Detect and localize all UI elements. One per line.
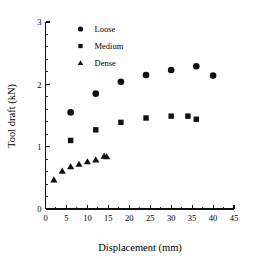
data-point [59, 167, 66, 173]
data-point [92, 90, 99, 97]
chart-figure: 0510152025303540450123 LooseMediumDense … [0, 0, 253, 259]
legend-label-loose: Loose [95, 24, 116, 34]
x-tick-label: 0 [43, 213, 47, 223]
data-point [143, 115, 148, 120]
x-axis-title: Displacement (mm) [98, 242, 182, 254]
data-point [143, 72, 150, 79]
axes [46, 22, 235, 209]
axis-tick-labels: 0510152025303540450123 [37, 17, 238, 223]
data-point [168, 113, 173, 118]
x-tick-label: 45 [230, 213, 239, 223]
y-axis-title: Tool draft (kN) [6, 84, 18, 148]
data-point [50, 176, 57, 182]
x-tick-label: 5 [64, 213, 68, 223]
chart-legend: LooseMediumDense [78, 24, 124, 68]
x-tick-label: 25 [146, 213, 155, 223]
data-point [194, 117, 199, 122]
y-tick-label: 2 [37, 80, 41, 90]
data-point [168, 67, 175, 74]
data-point [84, 158, 91, 164]
x-tick-label: 10 [83, 213, 92, 223]
data-point [67, 163, 74, 169]
legend-label-medium: Medium [95, 41, 124, 51]
y-tick-label: 3 [37, 17, 41, 27]
data-point [118, 79, 125, 86]
x-tick-label: 35 [188, 213, 197, 223]
x-tick-label: 30 [167, 213, 176, 223]
data-point [75, 161, 82, 167]
data-point [210, 72, 217, 79]
x-tick-label: 15 [104, 213, 113, 223]
legend-marker-medium-icon [78, 44, 82, 48]
series-loose [67, 63, 216, 116]
data-point [93, 127, 98, 132]
axis-ticks [46, 22, 235, 209]
data-point [185, 113, 190, 118]
data-point [68, 138, 73, 143]
series-dense [50, 153, 110, 183]
y-tick-label: 1 [37, 142, 41, 152]
legend-marker-loose-icon [78, 26, 83, 31]
y-tick-label: 0 [37, 204, 41, 214]
data-point [193, 63, 200, 70]
data-point [92, 156, 99, 162]
series-medium [68, 113, 199, 143]
legend-marker-dense-icon [78, 60, 84, 65]
data-point [118, 120, 123, 125]
x-tick-label: 20 [125, 213, 134, 223]
x-tick-label: 40 [209, 213, 218, 223]
legend-label-dense: Dense [95, 58, 116, 68]
data-point [67, 109, 74, 116]
scatter-plot: 0510152025303540450123 LooseMediumDense … [0, 0, 253, 259]
data-markers [50, 63, 216, 182]
